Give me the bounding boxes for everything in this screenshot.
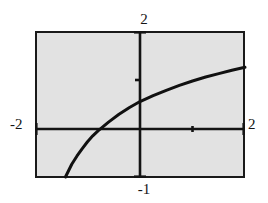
y-min-label-text: -1 bbox=[138, 181, 151, 197]
y-max-label-text: 2 bbox=[140, 11, 148, 27]
x-max-label: 2 bbox=[248, 117, 256, 132]
x-min-label: -2 bbox=[10, 117, 23, 132]
y-min-label: -1 bbox=[0, 182, 268, 197]
plot-drawing-area bbox=[35, 31, 245, 178]
y-max-label: 2 bbox=[0, 12, 268, 27]
function-graph: 2 -2 2 -1 bbox=[0, 0, 268, 203]
curve-path bbox=[65, 67, 245, 177]
